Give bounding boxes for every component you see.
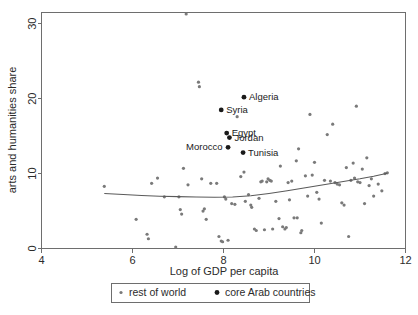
data-point-rest-of-world [287, 181, 290, 184]
chart-legend: rest of worldcore Arab countries [111, 283, 315, 302]
data-point-rest-of-world [352, 161, 355, 164]
data-point-rest-of-world [203, 207, 206, 210]
data-point-rest-of-world [358, 181, 361, 184]
data-point-rest-of-world [244, 200, 247, 203]
data-point-rest-of-world [226, 239, 229, 242]
country-label-morocco: Morocco [186, 141, 222, 152]
x-tick-label: 8 [220, 254, 226, 266]
data-point-rest-of-world [200, 177, 203, 180]
data-point-syria [219, 108, 224, 113]
data-point-rest-of-world [320, 221, 323, 224]
data-point-rest-of-world [255, 229, 258, 232]
data-point-rest-of-world [179, 208, 182, 211]
data-point-rest-of-world [331, 123, 334, 126]
data-point-rest-of-world [217, 235, 220, 238]
data-point-rest-of-world [323, 179, 326, 182]
data-point-rest-of-world [370, 177, 373, 180]
data-point-rest-of-world [271, 227, 274, 230]
data-point-rest-of-world [296, 216, 299, 219]
data-point-rest-of-world [329, 179, 332, 182]
data-point-rest-of-world [197, 81, 200, 84]
data-point-rest-of-world [311, 173, 314, 176]
data-point-rest-of-world [265, 180, 268, 183]
data-point-rest-of-world [145, 233, 148, 236]
data-point-rest-of-world [103, 185, 106, 188]
data-point-rest-of-world [317, 197, 320, 200]
chart-figure: 0102030 4681012 AlgeriaSyriaEgyptJordanM… [0, 0, 418, 315]
data-point-rest-of-world [380, 189, 383, 192]
data-point-rest-of-world [185, 12, 188, 15]
data-point-egypt [224, 131, 229, 136]
data-point-rest-of-world [209, 182, 212, 185]
data-point-rest-of-world [295, 159, 298, 162]
data-point-rest-of-world [277, 217, 280, 220]
data-point-rest-of-world [345, 166, 348, 169]
data-point-rest-of-world [156, 176, 159, 179]
y-tick-label: 0 [26, 245, 38, 251]
y-axis-title: arts and humanities share [6, 67, 18, 194]
data-point-rest-of-world [250, 206, 253, 209]
data-point-rest-of-world [300, 229, 303, 232]
data-point-rest-of-world [361, 167, 364, 170]
data-point-rest-of-world [340, 201, 343, 204]
data-point-rest-of-world [230, 202, 233, 205]
data-point-algeria [242, 95, 247, 100]
legend-label-core-arab-countries[interactable]: core Arab countries [225, 286, 315, 298]
data-point-rest-of-world [150, 182, 153, 185]
country-label-algeria: Algeria [249, 91, 279, 102]
data-point-rest-of-world [174, 245, 177, 248]
data-point-rest-of-world [290, 179, 293, 182]
data-point-rest-of-world [182, 167, 185, 170]
country-label-tunisia: Tunisia [248, 147, 279, 158]
data-point-rest-of-world [372, 194, 375, 197]
data-point-rest-of-world [377, 182, 380, 185]
data-point-rest-of-world [304, 174, 307, 177]
data-point-rest-of-world [342, 203, 345, 206]
data-point-rest-of-world [261, 179, 264, 182]
data-point-rest-of-world [257, 197, 260, 200]
data-point-rest-of-world [224, 197, 227, 200]
data-point-rest-of-world [198, 85, 201, 88]
legend-label-rest-of-world[interactable]: rest of world [129, 286, 186, 298]
data-point-tunisia [241, 150, 246, 155]
data-point-rest-of-world [186, 183, 189, 186]
data-point-rest-of-world [315, 191, 318, 194]
data-point-morocco [226, 145, 231, 150]
data-point-rest-of-world [147, 237, 150, 240]
data-point-rest-of-world [279, 164, 282, 167]
data-point-rest-of-world [355, 105, 358, 108]
data-point-rest-of-world [365, 156, 368, 159]
x-tick-label: 12 [399, 254, 411, 266]
data-point-rest-of-world [288, 198, 291, 201]
data-point-rest-of-world [221, 240, 224, 243]
country-label-syria: Syria [226, 104, 248, 115]
data-point-rest-of-world [285, 226, 288, 229]
data-point-rest-of-world [236, 115, 239, 118]
data-point-rest-of-world [347, 235, 350, 238]
data-point-rest-of-world [338, 183, 341, 186]
y-tick-label: 30 [26, 18, 38, 30]
x-tick-label: 6 [129, 254, 135, 266]
x-axis-title: Log of GDP per capita [170, 265, 280, 277]
data-point-rest-of-world [297, 147, 300, 150]
y-tick-label: 10 [26, 167, 38, 179]
data-point-rest-of-world [368, 184, 371, 187]
legend-marker-core-arab-countries [215, 290, 220, 295]
country-label-jordan: Jordan [234, 132, 263, 143]
data-point-rest-of-world [180, 212, 183, 215]
y-tick-label: 20 [26, 93, 38, 105]
legend-marker-rest-of-world [119, 291, 122, 294]
data-point-rest-of-world [292, 216, 295, 219]
x-tick-label: 4 [38, 254, 44, 266]
data-point-rest-of-world [363, 202, 366, 205]
data-point-rest-of-world [242, 170, 245, 173]
data-point-rest-of-world [215, 182, 218, 185]
data-point-rest-of-world [239, 175, 242, 178]
x-tick-label: 10 [308, 254, 320, 266]
data-point-rest-of-world [205, 218, 208, 221]
data-point-rest-of-world [306, 194, 309, 197]
data-point-rest-of-world [263, 228, 266, 231]
data-point-rest-of-world [135, 218, 138, 221]
data-point-rest-of-world [233, 203, 236, 206]
scatter-plot-svg: 0102030 4681012 AlgeriaSyriaEgyptJordanM… [0, 0, 418, 315]
